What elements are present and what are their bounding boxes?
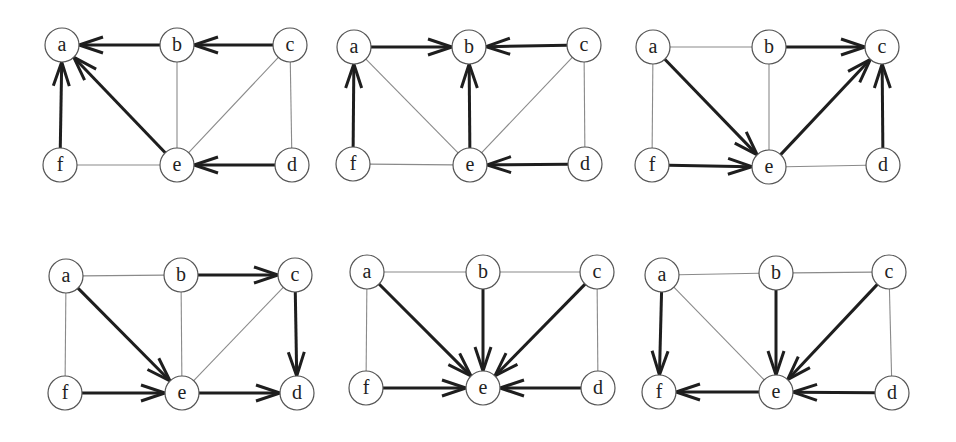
node-label: b (176, 263, 186, 285)
node-label: a (62, 264, 71, 286)
node-c: c (278, 258, 312, 292)
arc-e-to-a (74, 57, 165, 152)
node-label: c (286, 33, 295, 55)
node-b: b (466, 255, 500, 289)
arc-b-to-c (198, 267, 278, 283)
arc-d-to-e (194, 157, 275, 173)
node-label: c (593, 260, 602, 282)
node-d: d (568, 147, 602, 181)
node-d: d (275, 148, 309, 182)
node-d: d (866, 148, 900, 182)
node-label: f (363, 376, 370, 398)
panel-6: abcfed (642, 255, 909, 410)
node-label: b (172, 33, 182, 55)
edge-c-e (189, 57, 279, 152)
edge-c-d (290, 62, 291, 148)
edge-e-d (786, 165, 866, 166)
node-e: e (759, 375, 793, 409)
node-label: e (173, 153, 182, 175)
node-a: a (49, 259, 83, 293)
node-f: f (48, 376, 82, 410)
node-c: c (580, 255, 614, 289)
arc-e-to-b (461, 64, 477, 148)
edge-c-e (194, 287, 283, 380)
edge-a-f (366, 289, 367, 371)
arc-e-to-c (781, 59, 871, 154)
edge-a-e (366, 59, 458, 153)
node-b: b (160, 28, 194, 62)
node-label: f (350, 152, 357, 174)
node-label: f (656, 380, 663, 402)
node-label: d (287, 153, 297, 175)
edge-c-d (889, 289, 891, 376)
edge-b-e (181, 292, 182, 376)
panel-5: abcfed (349, 255, 615, 405)
edge-c-e (482, 57, 573, 152)
node-c: c (567, 28, 601, 62)
node-label: a (658, 263, 667, 285)
node-label: d (580, 152, 590, 174)
node-label: d (887, 381, 897, 403)
node-label: e (772, 380, 781, 402)
arc-c-to-e (788, 284, 878, 379)
panel-2: abcfed (336, 28, 602, 182)
node-label: c (885, 260, 894, 282)
node-d: d (280, 376, 314, 410)
graph-orientations-figure: abcfedabcfedabcfedabcfedabcfedabcfed (0, 0, 956, 442)
arc-a-to-e (379, 284, 471, 376)
arc-b-to-e (768, 290, 784, 375)
arc-f-to-e (82, 385, 165, 401)
node-label: f (57, 153, 64, 175)
node-a: a (337, 30, 371, 64)
node-f: f (635, 148, 669, 182)
arc-c-to-b (486, 38, 567, 54)
arc-b-to-e (475, 289, 491, 371)
arc-d-to-c (874, 64, 890, 148)
node-label: a (350, 35, 359, 57)
edge-a-f (652, 64, 653, 148)
node-label: e (178, 381, 187, 403)
node-label: a (58, 33, 67, 55)
edge-c-d (584, 62, 585, 147)
arc-f-to-a (346, 64, 362, 147)
node-label: b (764, 35, 774, 57)
node-a: a (350, 255, 384, 289)
arc-d-to-e (487, 157, 568, 173)
edge-a-b (679, 273, 759, 274)
node-label: b (478, 260, 488, 282)
node-f: f (336, 147, 370, 181)
node-c: c (273, 28, 307, 62)
node-label: e (479, 376, 488, 398)
node-label: e (765, 155, 774, 177)
arc-d-to-e (500, 380, 581, 396)
panel-1: abcfed (43, 28, 309, 182)
node-b: b (752, 30, 786, 64)
node-b: b (759, 256, 793, 290)
node-label: c (291, 263, 300, 285)
arc-c-to-b (194, 37, 273, 53)
node-f: f (349, 371, 383, 405)
node-label: d (593, 376, 603, 398)
node-label: c (580, 33, 589, 55)
arc-a-to-e (78, 288, 170, 381)
node-e: e (160, 148, 194, 182)
arc-c-to-d (288, 292, 304, 376)
node-b: b (452, 30, 486, 64)
arc-c-to-e (495, 284, 585, 376)
edge-a-b (83, 275, 164, 276)
edge-a-e (674, 287, 764, 380)
node-label: a (649, 35, 658, 57)
arc-d-to-e (793, 384, 875, 400)
edge-f-e (370, 164, 453, 165)
node-label: c (878, 35, 887, 57)
arc-f-to-a (53, 62, 69, 148)
node-c: c (872, 255, 906, 289)
node-e: e (752, 150, 786, 184)
edge-c-d (597, 289, 598, 371)
arc-f-to-e (383, 380, 466, 396)
node-label: b (464, 35, 474, 57)
node-c: c (865, 30, 899, 64)
node-d: d (581, 371, 615, 405)
node-a: a (645, 258, 679, 292)
node-f: f (642, 375, 676, 409)
